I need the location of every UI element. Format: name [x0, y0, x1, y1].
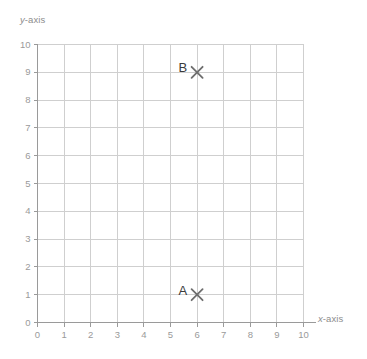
- x-axis-label-suffix: -axis: [323, 313, 344, 324]
- x-tick-label: 3: [102, 329, 132, 340]
- x-tick-label: 7: [209, 329, 239, 340]
- x-tick-label: 5: [156, 329, 186, 340]
- y-tick-label: 4: [5, 205, 31, 216]
- y-tick-label: 6: [5, 150, 31, 161]
- y-tick-label: 9: [5, 66, 31, 77]
- x-tick-label: 2: [76, 329, 106, 340]
- x-tick-label: 9: [262, 329, 292, 340]
- tick-marks: [34, 45, 304, 327]
- x-tick-label: 4: [129, 329, 159, 340]
- x-tick-label: 1: [49, 329, 79, 340]
- y-tick-label: 3: [5, 233, 31, 244]
- x-tick-label: 6: [182, 329, 212, 340]
- y-tick-label: 7: [5, 122, 31, 133]
- y-axis-label-suffix: -axis: [25, 14, 46, 25]
- point-label-a: A: [179, 284, 188, 297]
- x-tick-label: 8: [235, 329, 265, 340]
- coordinate-grid-svg: [0, 0, 367, 359]
- x-axis-label: x-axis: [318, 313, 343, 324]
- plot-canvas: y-axis x-axis 012345678910 012345678910 …: [0, 0, 367, 359]
- y-tick-label: 10: [5, 39, 31, 50]
- point-label-b: B: [179, 61, 188, 74]
- y-tick-label: 2: [5, 261, 31, 272]
- grid-lines: [38, 45, 304, 323]
- y-tick-label: 1: [5, 289, 31, 300]
- y-tick-label: 0: [5, 317, 31, 328]
- y-tick-label: 5: [5, 178, 31, 189]
- y-tick-label: 8: [5, 94, 31, 105]
- x-tick-label: 10: [289, 329, 319, 340]
- y-axis-label: y-axis: [20, 14, 45, 25]
- x-tick-label: 0: [23, 329, 53, 340]
